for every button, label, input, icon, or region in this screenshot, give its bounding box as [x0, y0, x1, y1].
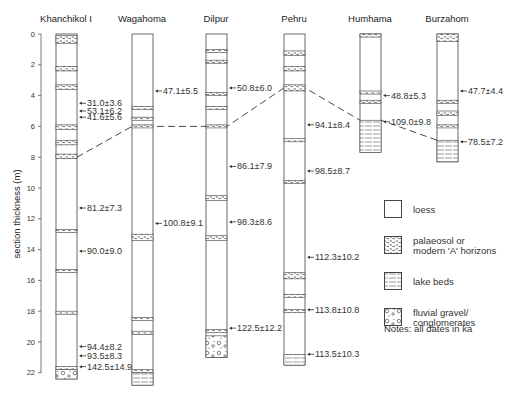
palaeosol-layer: [206, 49, 227, 52]
column-title: Dilpur: [204, 13, 229, 24]
palaeosol-layer: [132, 125, 153, 128]
legend: loess palaeosol ormodern 'A' horizons la…: [380, 196, 517, 324]
date-label: 48.8±5.3: [391, 91, 426, 101]
arrow-left-icon: [307, 123, 310, 126]
palaeosol-layer: [284, 66, 305, 71]
lake-bed-layer: [132, 373, 153, 385]
column-title: Khanchikol I: [40, 13, 92, 24]
palaeosol-layer: [132, 234, 153, 240]
arrow-left-icon: [79, 207, 82, 210]
palaeosol-layer: [206, 125, 227, 128]
palaeosol-swatch-icon: [384, 236, 402, 254]
palaeosol-layer: [56, 125, 77, 130]
date-label: 93.5±8.3: [87, 351, 122, 361]
column-title: Burzahom: [425, 13, 468, 24]
legend-item-lake-beds: lake beds: [380, 272, 517, 304]
column-burzahom: Burzahom47.7±4.478.5±7.2: [425, 13, 503, 162]
palaeosol-layer: [360, 91, 381, 94]
palaeosol-layer: [56, 140, 77, 145]
palaeosol-layer: [56, 230, 77, 233]
palaeosol-layer: [56, 36, 77, 44]
arrow-left-icon: [307, 170, 310, 173]
palaeosol-layer: [56, 85, 77, 90]
column-dilpur: Dilpur50.8±6.086.1±7.998.3±8.6122.5±12.2: [204, 13, 282, 357]
arrow-left-icon: [460, 89, 463, 92]
column-wagahoma: Wagahoma47.1±5.5100.8±9.1: [118, 13, 203, 385]
date-label: 78.5±7.2: [468, 137, 503, 147]
arrow-left-icon: [155, 89, 158, 92]
date-label: 98.3±8.6: [237, 217, 272, 227]
y-tick-label: 18: [27, 307, 35, 316]
y-axis-label: section thickness (m): [11, 169, 22, 258]
palaeosol-layer: [132, 317, 153, 320]
arrow-left-icon: [79, 116, 82, 119]
palaeosol-layer: [56, 154, 77, 159]
loess-swatch-icon: [384, 200, 402, 218]
y-tick-label: 16: [27, 276, 35, 285]
palaeosol-layer: [132, 117, 153, 120]
arrow-left-icon: [79, 110, 82, 113]
arrow-left-icon: [229, 86, 232, 89]
legend-label: lake beds: [413, 277, 454, 287]
date-label: 86.1±7.9: [237, 161, 272, 171]
y-axis: 0246810121416182022 section thickness (m…: [11, 30, 41, 378]
legend-item-loess: loess: [380, 200, 517, 232]
date-label: 113.8±10.8: [315, 305, 359, 315]
arrow-left-icon: [383, 94, 386, 97]
palaeosol-layer: [206, 93, 227, 96]
y-tick-label: 20: [27, 338, 35, 347]
column-pehru: Pehru94.1±8.498.5±8.7112.3±10.2113.8±10.…: [281, 13, 359, 365]
arrow-left-icon: [79, 102, 82, 105]
palaeosol-layer: [284, 294, 305, 297]
arrow-left-icon: [229, 220, 232, 223]
y-tick-label: 12: [27, 214, 35, 223]
y-tick-label: 0: [31, 30, 35, 39]
y-tick-label: 6: [31, 122, 35, 131]
date-label: 142.5±14.9: [87, 362, 132, 372]
arrow-left-icon: [307, 353, 310, 356]
palaeosol-layer: [284, 310, 305, 313]
date-label: 81.2±7.3: [87, 203, 122, 213]
column-title: Humhama: [348, 13, 393, 24]
date-label: 113.5±10.3: [315, 349, 359, 359]
palaeosol-layer: [360, 100, 381, 103]
date-label: 122.5±12.2: [237, 323, 282, 333]
lake-bed-layer: [284, 354, 305, 365]
date-label: 41.6±5.6: [87, 112, 122, 122]
palaeosol-layer: [437, 111, 458, 116]
palaeosol-layer: [437, 100, 458, 103]
arrow-left-icon: [79, 365, 82, 368]
date-label: 94.1±8.4: [315, 120, 350, 130]
arrow-left-icon: [229, 327, 232, 330]
column-humhama: Humhama48.8±5.3109.0±9.8: [348, 13, 431, 153]
lake-bed-layer: [437, 140, 458, 162]
palaeosol-layer: [284, 51, 305, 56]
palaeosol-layer: [56, 367, 77, 370]
palaeosol-layer: [437, 125, 458, 128]
palaeosol-layer: [206, 330, 227, 333]
notes-text: Notes: all dates in ka: [384, 323, 472, 334]
palaeosol-layer: [284, 273, 305, 279]
palaeosol-layer: [206, 60, 227, 63]
palaeosol-layer: [206, 236, 227, 241]
date-label: 100.8±9.1: [163, 218, 203, 228]
palaeosol-layer: [360, 34, 381, 37]
y-tick-label: 4: [31, 91, 35, 100]
palaeosol-layer: [284, 180, 305, 183]
date-label: 112.3±10.2: [315, 252, 359, 262]
arrow-left-icon: [460, 140, 463, 143]
column-title: Wagahoma: [118, 13, 167, 24]
lake-bed-layer: [360, 120, 381, 152]
legend-label: loess: [413, 205, 435, 215]
column-khanchikol-i: Khanchikol I31.0±3.653.1±6.241.6±5.681.2…: [40, 13, 132, 379]
legend-label: palaeosol ormodern 'A' horizons: [413, 236, 496, 256]
palaeosol-layer: [56, 270, 77, 273]
palaeosol-layer: [132, 106, 153, 109]
palaeosol-layer: [56, 66, 77, 71]
y-tick-label: 8: [31, 153, 35, 162]
palaeosol-layer: [206, 196, 227, 201]
date-label: 47.7±4.4: [468, 86, 503, 96]
arrow-left-icon: [79, 250, 82, 253]
legend-item-palaeosol: palaeosol ormodern 'A' horizons: [380, 236, 517, 268]
arrow-left-icon: [307, 308, 310, 311]
